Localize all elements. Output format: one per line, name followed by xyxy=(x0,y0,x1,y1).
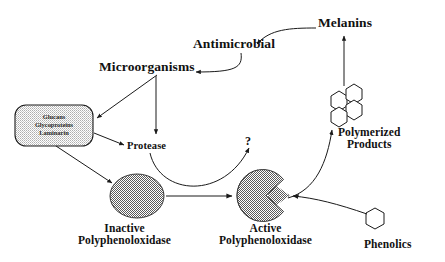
curve-protease-to-unknown xyxy=(150,148,249,186)
arrow-cellwall-to-inactive-ppo xyxy=(56,146,112,183)
inactive-line-2: Polyphenoloxidase xyxy=(78,234,171,246)
curve-phenolics-to-active-ppo xyxy=(293,196,367,214)
curve-active-ppo-to-polymerized xyxy=(288,130,332,198)
arrow-microorganisms-to-cellwall xyxy=(97,75,157,118)
node-label-microorganisms: Microorganisms xyxy=(99,60,195,74)
polymerized-products-shape xyxy=(331,84,362,127)
node-label-protease: Protease xyxy=(127,140,166,151)
polymerized-line-2: Products xyxy=(338,138,400,150)
inactive-line-1: Inactive xyxy=(78,222,171,234)
active-line-2: Polyphenoloxidase xyxy=(219,234,312,246)
node-label-antimicrobial: Antimicrobial xyxy=(193,37,275,51)
active-line-1: Active xyxy=(219,222,312,234)
curve-antimicrobial-to-microorganisms xyxy=(196,53,241,72)
node-label-phenolics: Phenolics xyxy=(364,238,412,250)
node-label-inactive-ppo: Inactive Polyphenoloxidase xyxy=(78,222,171,246)
active-ppo-shape xyxy=(237,170,289,222)
node-label-active-ppo: Active Polyphenoloxidase xyxy=(219,222,312,246)
node-label-melanins: Melanins xyxy=(318,16,372,30)
node-label-polymerized-products: Polymerized Products xyxy=(338,126,400,150)
cell-wall-box-shape xyxy=(15,105,93,146)
inactive-ppo-shape xyxy=(110,174,164,218)
phenolics-shape xyxy=(366,208,384,229)
polymerized-line-1: Polymerized xyxy=(338,126,400,138)
node-label-unknown-step: ? xyxy=(245,135,251,148)
arrow-cellwall-to-protease xyxy=(94,133,124,145)
diagram-canvas: Glucans Glycoproteins Laminarin Microorg… xyxy=(0,0,445,262)
